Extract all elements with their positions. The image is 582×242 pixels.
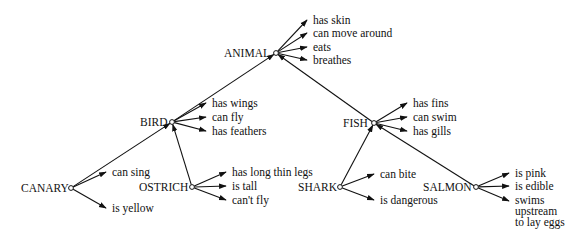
property-arrow-canary: [73, 172, 106, 187]
node-label-animal: ANIMAL: [224, 47, 270, 59]
node-label-ostrich: OSTRICH: [139, 181, 188, 193]
property-arrow-ostrich: [194, 172, 226, 186]
property-label-ostrich: is tall: [232, 180, 257, 192]
property-label-animal: eats: [313, 41, 331, 53]
semantic-network-diagram: ANIMALhas skincan move aroundeatsbreathe…: [0, 0, 582, 242]
property-arrow-salmon: [478, 188, 509, 201]
property-label-canary: can sing: [112, 166, 150, 179]
node-salmon: [474, 185, 479, 190]
property-arrow-animal: [278, 47, 307, 53]
property-label-bird: can fly: [212, 111, 244, 124]
property-label-canary: is yellow: [112, 202, 155, 215]
property-arrow-salmon: [478, 186, 509, 187]
property-arrow-ostrich: [194, 186, 226, 187]
property-arrow-ostrich: [194, 188, 226, 200]
property-label-salmon: is pink: [515, 167, 546, 180]
node-ostrich: [190, 185, 195, 190]
property-label-fish: has gills: [413, 125, 452, 138]
node-label-fish: FISH: [343, 117, 368, 129]
node-fish: [372, 121, 377, 126]
property-label-salmon: to lay eggs: [515, 216, 565, 229]
node-canary: [69, 186, 74, 191]
labels-layer: ANIMALhas skincan move aroundeatsbreathe…: [21, 14, 565, 229]
property-arrow-shark: [342, 188, 374, 200]
node-label-canary: CANARY: [21, 182, 70, 194]
property-arrow-fish: [376, 103, 407, 122]
node-label-salmon: SALMON: [423, 181, 472, 193]
property-arrow-bird: [174, 123, 206, 131]
isa-link-ostrich-to-bird: [173, 124, 192, 184]
property-label-salmon: is edible: [515, 180, 554, 192]
property-label-animal: breathes: [313, 54, 352, 66]
property-arrow-salmon: [478, 173, 509, 186]
node-bird: [170, 120, 175, 125]
property-arrow-animal: [278, 54, 307, 60]
node-label-shark: SHARK: [298, 181, 338, 193]
property-label-bird: has wings: [212, 97, 258, 110]
property-label-shark: is dangerous: [380, 194, 438, 207]
property-arrow-canary: [73, 189, 106, 208]
property-label-fish: has fins: [413, 97, 449, 109]
property-label-animal: has skin: [313, 14, 351, 26]
property-label-ostrich: can't fly: [232, 194, 269, 207]
property-label-ostrich: has long thin legs: [232, 166, 313, 179]
property-label-animal: can move around: [313, 27, 392, 39]
node-animal: [274, 51, 279, 56]
node-label-bird: BIRD: [140, 116, 167, 128]
property-label-shark: can bite: [380, 168, 416, 180]
property-arrow-shark: [342, 174, 374, 186]
property-label-fish: can swim: [413, 111, 457, 123]
node-shark: [338, 185, 343, 190]
property-arrow-fish: [376, 117, 407, 123]
property-label-bird: has feathers: [212, 125, 267, 137]
